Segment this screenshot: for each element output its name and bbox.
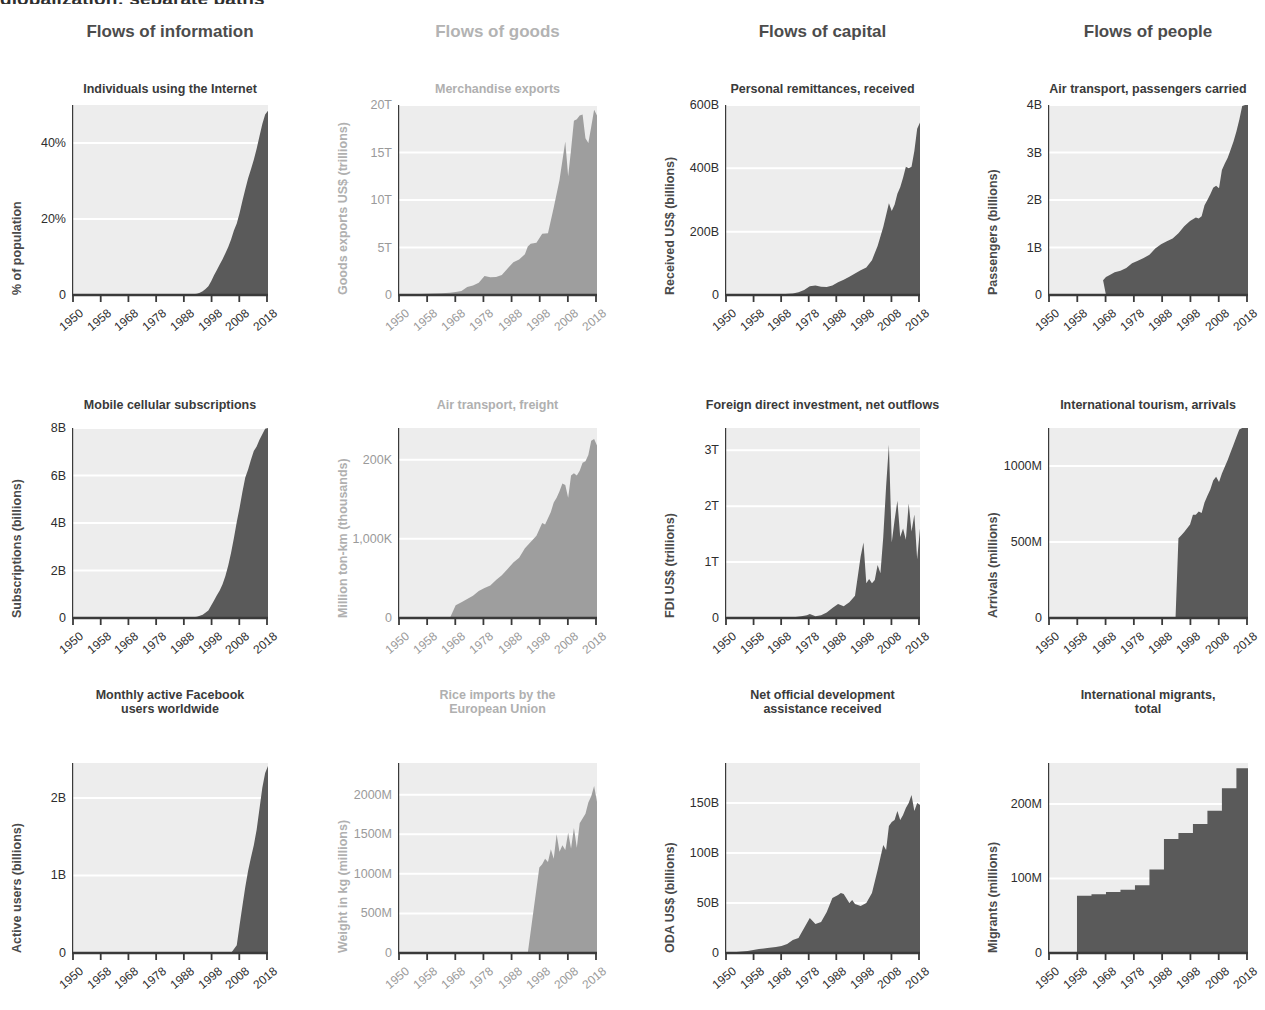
y-tick-international-migrants-total-0: 0 [990,946,1042,960]
chart-title-international-migrants-total: International migrants, total [978,688,1265,716]
y-tick-international-migrants-total-1: 100M [990,871,1042,885]
y-axis-label-international-migrants-total: Migrants (millions) [986,842,1000,953]
chart-cell-international-migrants-total: International migrants, totalMigrants (m… [0,0,1265,1010]
plot-area-international-migrants-total [1048,763,1248,979]
y-tick-international-migrants-total-2: 200M [990,797,1042,811]
globalization-flows-figure: globalization: separate paths Flows of i… [0,0,1265,1010]
